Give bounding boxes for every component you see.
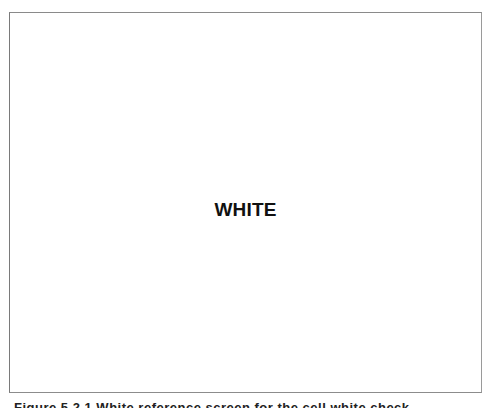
white-test-panel: WHITE	[9, 12, 482, 393]
panel-label: WHITE	[10, 199, 481, 221]
figure-caption: Figure 5.2.1 White reference screen for …	[14, 399, 484, 408]
